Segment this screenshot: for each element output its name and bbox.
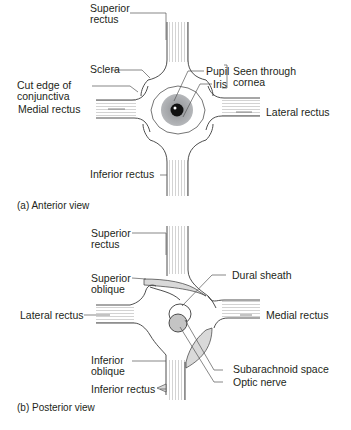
label-pupil: Pupil — [206, 66, 229, 77]
lateral-rectus-muscle — [222, 98, 260, 116]
label-line: oblique — [91, 366, 125, 377]
label-cut-edge-of-conjunctiva: Cut edge of conjunctiva — [17, 80, 71, 102]
label-medial-rectus-a: Medial rectus — [18, 104, 80, 115]
optic-nerve — [169, 314, 187, 332]
label-line: oblique — [91, 284, 131, 295]
label-lateral-rectus-a: Lateral rectus — [266, 107, 330, 118]
label-line: rectus — [91, 239, 131, 250]
label-medial-rectus-b: Medial rectus — [266, 310, 328, 321]
inferior-rectus-muscle — [168, 160, 188, 196]
label-line: rectus — [90, 14, 130, 25]
caption-posterior-view: (b) Posterior view — [17, 402, 95, 413]
pupil — [171, 104, 184, 117]
posterior-lateral-rectus-muscle — [96, 305, 134, 323]
inferior-oblique-muscle — [186, 328, 212, 368]
superior-rectus-muscle — [168, 22, 188, 62]
label-iris: Iris — [213, 79, 227, 90]
label-subarachnoid-space: Subarachnoid space — [233, 364, 329, 375]
caption-anterior-view: (a) Anterior view — [17, 200, 89, 211]
label-line: conjunctiva — [17, 91, 71, 102]
label-inferior-rectus-a: Inferior rectus — [90, 169, 154, 180]
label-inferior-oblique: Inferior oblique — [91, 355, 125, 377]
label-line: cornea — [233, 77, 296, 88]
label-lateral-rectus-b: Lateral rectus — [20, 310, 84, 321]
label-optic-nerve: Optic nerve — [233, 377, 287, 388]
label-superior-rectus-b: Superior rectus — [91, 228, 131, 250]
posterior-inferior-rectus-muscle — [167, 360, 185, 400]
label-sclera: Sclera — [90, 64, 120, 75]
label-superior-oblique: Superior oblique — [91, 273, 131, 295]
label-seen-through-cornea: Seen through cornea — [233, 66, 296, 88]
label-dural-sheath: Dural sheath — [232, 270, 292, 281]
label-superior-rectus-a: Superior rectus — [90, 3, 130, 25]
posterior-superior-rectus-muscle — [168, 226, 187, 274]
label-inferior-rectus-b: Inferior rectus — [91, 384, 155, 395]
